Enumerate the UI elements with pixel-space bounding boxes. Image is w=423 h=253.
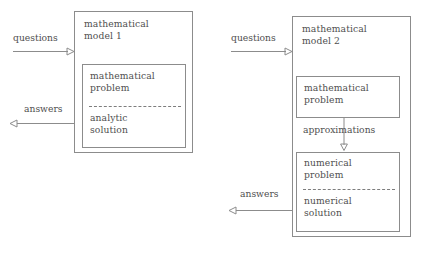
arrow-answers-1 [9,119,74,127]
inner-label-mathematical-problem-2: mathematical problem [304,82,369,106]
arrow-questions-2 [231,47,293,55]
arrow-answers-2 [228,206,293,214]
inner-box-analytic-block: mathematical problem analytic solution [82,64,186,148]
diagram-canvas: questions answers mathematical model 1 m… [0,0,423,253]
edge-label-answers-1: answers [24,103,63,114]
edge-label-questions-2: questions [231,32,276,43]
arrow-questions-1 [13,47,75,55]
divider-dashed-2 [303,189,395,190]
internal-arrow-label-approximations: approximations [303,124,375,135]
outer-label-model-2: mathematical model 2 [302,23,367,47]
outer-label-model-1: mathematical model 1 [84,18,149,42]
inner-label-analytic-solution: analytic solution [90,112,128,136]
edge-label-answers-2: answers [240,188,279,199]
inner-label-numerical-problem: numerical problem [304,157,352,181]
inner-box-math-problem-block: mathematical problem [296,76,400,118]
inner-label-numerical-solution: numerical solution [304,195,352,219]
divider-dashed-1 [89,106,181,107]
inner-label-mathematical-problem-1: mathematical problem [90,70,155,94]
inner-box-numerical-block: numerical problem numerical solution [296,152,400,232]
edge-label-questions-1: questions [13,32,58,43]
